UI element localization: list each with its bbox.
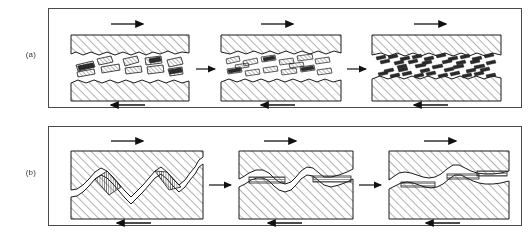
- wear-mechanism-figure: (a): [0, 0, 530, 235]
- stage-a1-debris-group: [76, 56, 183, 77]
- stage-a2-lower-surface: [221, 79, 341, 101]
- panel-b: (b): [0, 118, 530, 235]
- stage-a3-debris-group: [376, 53, 496, 78]
- panel-a-canvas: [49, 9, 523, 109]
- panel-a-stage-3: [372, 24, 501, 105]
- stage-a3-lower-surface: [372, 76, 501, 101]
- panel-a-label: (a): [16, 50, 46, 59]
- stage-a1-lower-surface: [71, 80, 189, 101]
- panel-a-frame: [48, 8, 522, 108]
- panel-b-canvas: [49, 127, 523, 227]
- panel-b-label: (b): [16, 168, 46, 177]
- stage-a2-debris-group: [226, 54, 332, 76]
- stage-a3-upper-surface: [372, 35, 501, 56]
- panel-b-stage-1: [71, 141, 203, 223]
- stage-a1-upper-surface: [71, 35, 189, 55]
- panel-a-stage-1: [71, 24, 189, 105]
- panel-b-stage-2: [239, 141, 353, 223]
- panel-b-frame: [48, 126, 522, 226]
- stage-a2-upper-surface: [221, 35, 341, 54]
- panel-b-stage-3: [389, 141, 509, 223]
- panel-a: (a): [0, 0, 530, 117]
- panel-a-stage-2: [221, 24, 341, 105]
